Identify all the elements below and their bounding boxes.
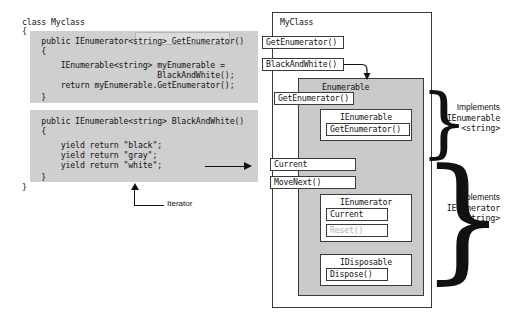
implements-type-arg: <string> bbox=[434, 123, 500, 134]
myclass-title: MyClass bbox=[280, 17, 313, 27]
class-diagram: MyClass Enumerable IEnumerable IEnumerat… bbox=[260, 6, 510, 318]
idisposable-title: IDisposable bbox=[340, 257, 392, 267]
code-line: } bbox=[22, 93, 46, 102]
implements-word: Implements bbox=[434, 192, 500, 203]
implements-type-arg: <string> bbox=[434, 213, 500, 224]
iterator-callout: Iterator bbox=[120, 186, 210, 214]
member-getenumerator-ienumerable: GetEnumerator() bbox=[326, 123, 410, 136]
callout-horizontal-line bbox=[134, 205, 164, 206]
compiles-to-arrow bbox=[205, 162, 253, 170]
code-line: class Myclass bbox=[22, 18, 85, 27]
arrow-shaft bbox=[205, 166, 245, 167]
code-line: IEnumerable<string> myEnumerable = bbox=[22, 61, 225, 70]
code-line: { bbox=[22, 127, 46, 136]
code-line: } bbox=[22, 183, 27, 192]
arrow-head-icon bbox=[244, 162, 252, 170]
member-current-ienumerator: Current bbox=[326, 208, 388, 221]
ienumerable-title: IEnumerable bbox=[340, 112, 392, 122]
member-getenumerator-enumerable: GetEnumerator() bbox=[274, 92, 354, 105]
member-current-enumerable: Current bbox=[270, 158, 356, 171]
code-line: BlackAndWhite(); bbox=[22, 71, 235, 80]
member-blackandwhite-class: BlackAndWhite() bbox=[262, 58, 344, 71]
ienumerator-title: IEnumerator bbox=[340, 197, 392, 207]
code-line: { bbox=[22, 27, 27, 36]
implements-interface-name: IEnumerable bbox=[434, 113, 500, 124]
code-line: return myEnumerable.GetEnumerator(); bbox=[22, 81, 235, 90]
code-line: yield return "white"; bbox=[22, 161, 162, 170]
member-movenext-enumerable: MoveNext() bbox=[270, 176, 356, 189]
code-line: public IEnumerator<string> GetEnumerator… bbox=[22, 37, 244, 46]
implements-ienumerable-label: Implements IEnumerable <string> bbox=[434, 102, 500, 134]
code-line: yield return "black"; bbox=[22, 141, 162, 150]
code-line: { bbox=[22, 47, 46, 56]
member-dispose-idisposable: Dispose() bbox=[326, 268, 388, 281]
implements-word: Implements bbox=[434, 102, 500, 113]
iterator-label: Iterator bbox=[167, 199, 192, 208]
member-getenumerator-class: GetEnumerator() bbox=[262, 36, 344, 49]
code-line: public IEnumerable<string> BlackAndWhite… bbox=[22, 117, 244, 126]
enumerable-title: Enumerable bbox=[322, 82, 369, 92]
implements-interface-name: IEnumerator bbox=[434, 203, 500, 214]
member-reset-ienumerator: Reset() bbox=[326, 224, 388, 237]
code-line: } bbox=[22, 173, 46, 182]
code-line: yield return "gray"; bbox=[22, 151, 157, 160]
callout-arrow-head-icon bbox=[131, 183, 139, 190]
implements-ienumerator-label: Implements IEnumerator <string> bbox=[434, 192, 500, 224]
callout-vertical-line bbox=[134, 190, 135, 206]
